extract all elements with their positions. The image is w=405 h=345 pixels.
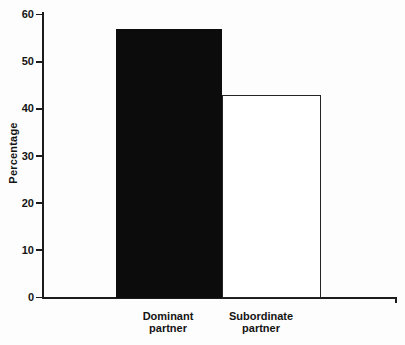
y-tick-mark: [36, 14, 42, 16]
y-tick-mark: [36, 108, 42, 110]
bar-subordinate-partner: [222, 95, 321, 298]
y-tick-label: 50: [6, 55, 34, 68]
y-tick-label: 20: [6, 197, 34, 210]
category-label: Dominant partner: [128, 311, 208, 334]
y-tick-mark: [36, 155, 42, 157]
y-axis-line: [42, 12, 44, 299]
category-label: Subordinate partner: [221, 311, 301, 334]
y-tick-mark: [36, 202, 42, 204]
y-tick-label: 60: [6, 8, 34, 21]
y-tick-mark: [36, 249, 42, 251]
y-tick-mark: [36, 297, 42, 299]
y-tick-label: 40: [6, 102, 34, 115]
y-tick-label: 10: [6, 244, 34, 257]
y-tick-mark: [36, 61, 42, 63]
bar-dominant-partner: [116, 29, 222, 298]
y-tick-label: 0: [6, 291, 34, 304]
x-axis-end-tick: [395, 299, 397, 303]
bar-chart: Percentage 0102030405060 Dominant partne…: [0, 0, 405, 345]
y-tick-label: 30: [6, 150, 34, 163]
